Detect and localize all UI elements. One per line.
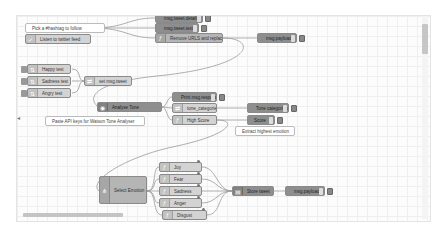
function-remove-urls[interactable]: ƒ Remove URLS and replace & [155,33,223,43]
debug-toggle[interactable] [327,188,333,195]
arrow-icon: ⇅ [28,77,38,85]
inject-button[interactable] [21,90,27,97]
debug-toggle[interactable] [291,105,297,112]
inject-happy-test[interactable]: ⇅ Happy test [27,64,71,74]
debug-toggle[interactable] [219,94,225,101]
switch-icon: ⋔ [100,177,110,203]
function-icon: ƒ [160,163,170,171]
function-joy[interactable]: ƒ Joy [159,162,202,172]
change-icon: ⇄ [85,77,95,85]
inject-angry-test[interactable]: ⇅ Angry test [27,88,71,98]
vertical-scrollbar[interactable] [422,16,428,219]
watson-analyse-tone[interactable]: ◉ Analyse Tone [97,102,162,112]
switch-select-emotion[interactable]: ⋔ Select Emotion [99,176,147,204]
debug-toggle[interactable] [277,117,283,124]
debug-tone-categories[interactable]: Tone categories [247,103,289,113]
horizontal-scroll-thumb[interactable] [23,213,123,217]
database-icon: ▤ [233,187,243,195]
function-icon: ƒ [160,175,170,183]
change-icon: ⇄ [173,104,183,112]
twitter-in-node[interactable]: ✓ Listen to twitter feed [25,34,91,44]
inject-button[interactable] [21,66,27,73]
function-anger[interactable]: ƒ Anger [159,198,202,208]
comment-extract-emotion[interactable]: Extract highest emotion [235,126,295,136]
function-icon: ƒ [156,34,166,42]
function-icon: ƒ [160,199,170,207]
debug-node-msg-payload-2[interactable]: msg.payload [285,186,325,196]
debug-toggle[interactable] [205,15,211,22]
debug-node-tweet-details[interactable]: msg.tweet.details [155,15,203,23]
change-tone-categories[interactable]: ⇄ tone_categories [172,103,217,113]
function-sadness[interactable]: ƒ Sadness [159,186,202,196]
comment-pick-hashtag[interactable]: Pick a #hashtag to follow [25,23,105,33]
function-icon: ƒ [160,187,170,195]
function-icon: ƒ [173,116,183,124]
scroll-left-arrow[interactable]: ◂ [17,114,20,121]
flow-canvas[interactable]: Pick a #hashtag to follow ✓ Listen to tw… [16,15,431,222]
comment-api-keys[interactable]: Paste API keys for Watson Tone Analyser [45,116,145,126]
change-set-msg-tweet[interactable]: ⇄ set msg.tweet [84,76,132,86]
arrow-icon: ⇅ [28,65,38,73]
debug-toggle[interactable] [299,35,305,42]
inject-button[interactable] [21,78,27,85]
debug-print-response[interactable]: Print msg.response [172,92,217,102]
function-high-score[interactable]: ƒ High Score [172,115,217,125]
arrow-icon: ⇅ [28,89,38,97]
debug-score[interactable]: Score [247,115,275,125]
debug-node-tweet-text[interactable]: msg.tweet.text [155,23,199,33]
horizontal-scrollbar[interactable] [17,212,422,218]
inject-sadness-test[interactable]: ⇅ Sadness test [27,76,71,86]
debug-toggle[interactable] [201,25,207,32]
watson-icon: ◉ [98,103,108,111]
vertical-scroll-thumb[interactable] [422,24,428,54]
storage-store-tweet[interactable]: ▤ Store tweet [232,186,274,196]
function-fear[interactable]: ƒ Fear [159,174,202,184]
twitter-icon: ✓ [26,35,36,43]
debug-node-msg-payload[interactable]: msg.payload [257,33,297,43]
